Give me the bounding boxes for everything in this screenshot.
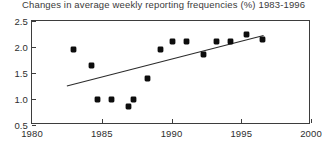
data-point xyxy=(145,76,150,81)
data-point xyxy=(170,39,175,44)
data-point xyxy=(131,97,136,102)
data-point xyxy=(244,32,249,37)
x-tick-label: 2000 xyxy=(300,128,322,139)
data-point xyxy=(109,97,114,102)
x-tick-label: 1980 xyxy=(21,128,43,139)
data-point xyxy=(95,97,100,102)
y-tick-label: 1.5 xyxy=(14,68,28,79)
trend-line xyxy=(32,21,311,125)
x-tick-label: 1985 xyxy=(91,128,113,139)
y-tick-mark xyxy=(32,125,36,126)
data-point xyxy=(184,39,189,44)
data-point xyxy=(260,37,265,42)
data-point xyxy=(228,39,233,44)
x-tick-label: 1995 xyxy=(230,128,252,139)
y-tick-label: 2.0 xyxy=(14,42,28,53)
data-point xyxy=(71,47,76,52)
chart-container: Changes in average weekly reporting freq… xyxy=(0,0,332,142)
plot-area: 0.51.01.52.02.5 19801985199019952000 xyxy=(31,20,310,124)
data-point xyxy=(201,52,206,57)
data-point xyxy=(126,104,131,109)
x-tick-label: 1990 xyxy=(161,128,183,139)
data-point xyxy=(89,63,94,68)
chart-title: Changes in average weekly reporting freq… xyxy=(22,0,322,10)
data-point xyxy=(214,39,219,44)
data-point xyxy=(158,47,163,52)
x-tick-mark xyxy=(311,119,312,123)
y-tick-label: 2.5 xyxy=(14,16,28,27)
y-tick-label: 1.0 xyxy=(14,94,28,105)
